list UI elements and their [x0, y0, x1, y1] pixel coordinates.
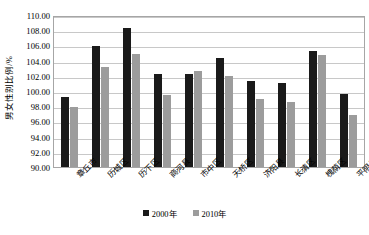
bar-group: [271, 17, 302, 167]
legend-entry: 2000年: [143, 207, 177, 219]
bar: [92, 46, 100, 167]
x-axis-category-label: 商河县: [167, 172, 175, 180]
bar-group: [209, 17, 240, 167]
y-axis-tick-label: 96.00: [31, 118, 50, 127]
y-axis-tick-labels: 110.00108.00106.00104.00102.00100.0098.0…: [14, 16, 52, 168]
bar: [309, 51, 317, 167]
bar: [256, 99, 264, 167]
bar-groups: [54, 17, 364, 167]
bar-group: [116, 17, 147, 167]
bar: [278, 83, 286, 167]
plot-area: [53, 16, 365, 168]
y-axis-tick-label: 98.00: [31, 103, 50, 112]
x-axis-category-label: 历下区: [136, 172, 144, 180]
bar-group: [147, 17, 178, 167]
legend-swatch: [143, 210, 149, 216]
x-axis-category-label: 济阳县: [261, 172, 269, 180]
x-axis-category-label: 长清区: [292, 172, 300, 180]
bar: [349, 115, 357, 167]
legend-label: 2010年: [202, 207, 227, 219]
bar: [154, 74, 162, 167]
y-axis-tick-label: 92.00: [31, 149, 50, 158]
bar-group: [333, 17, 364, 167]
legend-swatch: [193, 210, 199, 216]
x-axis-category-label: 天桥区: [230, 172, 238, 180]
bar: [216, 58, 224, 167]
bar: [123, 28, 131, 167]
y-axis-tick-label: 106.00: [26, 42, 50, 51]
bar-group: [178, 17, 209, 167]
chart-legend: 2000年2010年: [0, 207, 369, 219]
y-axis-tick-label: 90.00: [31, 164, 50, 173]
y-axis-tick-label: 108.00: [26, 27, 50, 36]
x-axis-category-label: 市中区: [198, 172, 206, 180]
bar: [185, 74, 193, 167]
bar-group: [85, 17, 116, 167]
bar: [318, 55, 326, 167]
x-axis-category-label: 槐荫区: [323, 172, 331, 180]
bar: [287, 102, 295, 167]
bar: [225, 76, 233, 167]
bar-group: [302, 17, 333, 167]
x-axis-category-label: 历城区: [105, 172, 113, 180]
legend-label: 2000年: [152, 207, 177, 219]
bar: [194, 71, 202, 167]
bar-group: [240, 17, 271, 167]
y-axis-tick-label: 110.00: [27, 12, 50, 21]
bar: [61, 97, 69, 167]
x-axis-category-label: 平阴县: [354, 172, 362, 180]
y-axis-tick-label: 104.00: [26, 57, 50, 66]
y-axis-title-label: 男女性别比例/%: [2, 56, 14, 119]
bar: [70, 107, 78, 167]
bar-group: [54, 17, 85, 167]
bar: [247, 81, 255, 167]
y-axis-tick-label: 100.00: [26, 88, 50, 97]
legend-entry: 2010年: [193, 207, 227, 219]
bar: [132, 54, 140, 167]
y-axis-tick-label: 94.00: [31, 133, 50, 142]
y-axis-tick-label: 102.00: [26, 73, 50, 82]
bar: [101, 67, 109, 167]
bar-chart: 男女性别比例/% 110.00108.00106.00104.00102.001…: [0, 0, 369, 235]
bar: [163, 95, 171, 167]
x-axis-category-label: 章丘市: [74, 172, 82, 180]
